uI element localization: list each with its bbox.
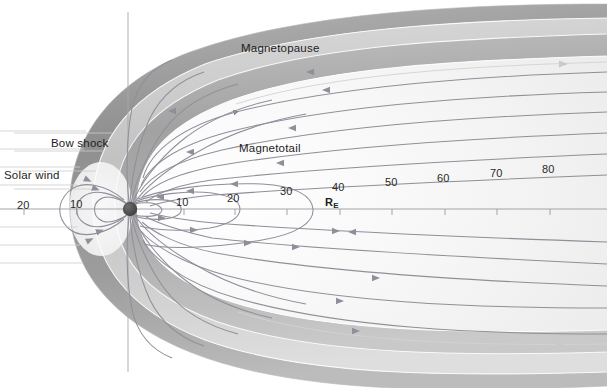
axis-tick-label-tailward-80: 80 xyxy=(542,163,555,175)
axis-tick-label-tailward-20: 20 xyxy=(227,192,240,204)
axis-tick-label-sunward-20: 20 xyxy=(17,199,30,211)
bow-shock-label: Bow shock xyxy=(51,137,108,149)
axis-tick-label-tailward-40: 40 xyxy=(332,181,345,193)
axis-tick-label-tailward-30: 30 xyxy=(280,185,293,197)
axis-tick-label-tailward-70: 70 xyxy=(490,167,503,179)
magnetopause-label: Magnetopause xyxy=(241,42,320,54)
axis-tick-label-tailward-50: 50 xyxy=(385,176,398,188)
earth-radii-unit-subscript: E xyxy=(333,201,339,210)
earth-body xyxy=(123,202,137,216)
earth-radii-unit-symbol: R xyxy=(325,196,333,208)
magnetosphere-diagram: Magnetopause Magnetotail Bow shock Solar… xyxy=(0,0,607,388)
axis-tick-label-tailward-10: 10 xyxy=(176,196,189,208)
solar-wind-label: Solar wind xyxy=(4,169,60,181)
axis-tick-label-tailward-60: 60 xyxy=(437,172,450,184)
earth-radii-unit-label: RE xyxy=(325,196,339,208)
magnetotail-label: Magnetotail xyxy=(239,142,301,154)
diagram-canvas xyxy=(0,0,607,388)
axis-tick-label-sunward-10: 10 xyxy=(70,198,83,210)
